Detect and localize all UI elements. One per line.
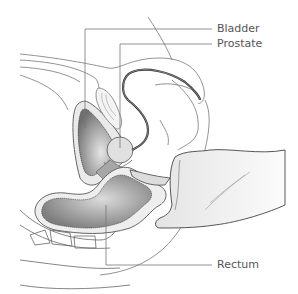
prostate-label: Prostate [217,38,262,50]
rectum-label: Rectum [217,259,259,271]
bladder-label: Bladder [217,23,260,35]
urethra [123,70,200,150]
pelvic-anatomy-diagram: Bladder Prostate Rectum [0,0,298,294]
